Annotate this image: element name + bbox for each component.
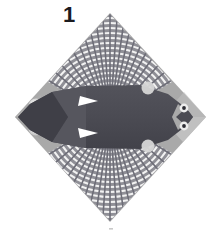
- specimen-diagram: [0, 0, 220, 233]
- caption-tick: [109, 228, 113, 230]
- body-circle-upper: [142, 82, 155, 95]
- right-eye-lower: [180, 122, 189, 131]
- figure-panel: 1: [0, 0, 220, 233]
- body-circle-lower: [142, 140, 155, 153]
- figure-number-label: 1: [55, 2, 83, 28]
- right-eye-upper: [180, 104, 189, 113]
